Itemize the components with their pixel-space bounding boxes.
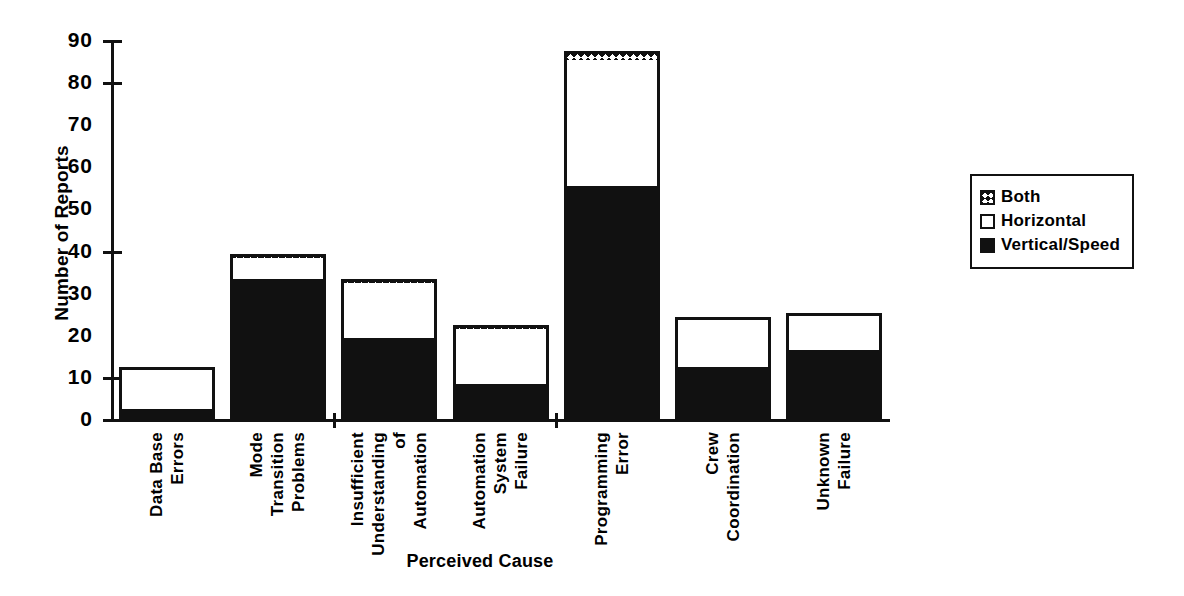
x-label-group-2: ModeTransitionProblems — [248, 432, 311, 582]
y-tick-label: 10 — [47, 366, 93, 387]
segment-vertical-speed — [230, 279, 326, 422]
x-tick-label: Understanding — [370, 432, 387, 556]
white-swatch — [980, 214, 995, 229]
legend-item-3[interactable]: Vertical/Speed — [980, 235, 1120, 255]
segment-horizontal — [675, 317, 771, 368]
x-tick-label: of — [391, 432, 408, 449]
chart-legend: BothHorizontalVertical/Speed — [970, 174, 1134, 269]
segment-horizontal — [564, 60, 660, 186]
x-axis-title: Perceived Cause — [330, 551, 630, 572]
legend-label: Both — [1001, 187, 1041, 207]
x-tick-label: Mode — [248, 432, 265, 478]
y-tick-label: 40 — [47, 240, 93, 261]
bar-3[interactable] — [341, 279, 437, 422]
segment-vertical-speed — [786, 350, 882, 422]
legend-label: Vertical/Speed — [1001, 235, 1120, 255]
stacked-bar-chart: Number of Reports 0102030405060708090 Da… — [0, 0, 1184, 596]
segment-horizontal — [341, 283, 437, 338]
y-tick-label: 50 — [47, 197, 93, 218]
segment-both — [564, 51, 660, 59]
x-label-group-1: Data BaseErrors — [148, 432, 190, 582]
bar-2[interactable] — [230, 254, 326, 422]
bar-7[interactable] — [786, 313, 882, 422]
x-tick-label: Transition — [269, 432, 286, 516]
segment-horizontal — [119, 367, 215, 409]
bar-4[interactable] — [453, 325, 549, 422]
segment-both — [341, 279, 437, 283]
segment-horizontal — [786, 313, 882, 351]
y-tick-label: 0 — [47, 408, 93, 429]
y-tick-label: 90 — [47, 29, 93, 50]
legend-label: Horizontal — [1001, 211, 1086, 231]
x-tick-label: Insufficient — [349, 432, 366, 526]
legend-item-2[interactable]: Horizontal — [980, 211, 1120, 231]
segment-vertical-speed — [119, 409, 215, 422]
segment-horizontal — [230, 258, 326, 279]
x-tick-label: Failure — [513, 432, 530, 490]
segment-vertical-speed — [564, 186, 660, 422]
segment-both — [453, 325, 549, 329]
segment-horizontal — [453, 329, 549, 384]
x-tick-label: Automation — [412, 432, 429, 529]
segment-vertical-speed — [341, 338, 437, 422]
crosshatch-swatch — [980, 190, 995, 205]
segment-both — [230, 254, 326, 258]
x-label-group-7: UnknownFailure — [815, 432, 857, 582]
legend-item-1[interactable]: Both — [980, 187, 1120, 207]
bar-5[interactable] — [564, 51, 660, 422]
x-tick-label: Error — [614, 432, 631, 475]
x-tick-label: Data Base — [148, 432, 165, 517]
plot-area — [111, 41, 890, 422]
segment-vertical-speed — [453, 384, 549, 422]
x-tick-label: Failure — [836, 432, 853, 490]
x-tick-label: Crew — [704, 432, 721, 475]
x-tick-label: Problems — [290, 432, 307, 512]
x-tick-label: Automation — [471, 432, 488, 529]
x-tick-label: Unknown — [815, 432, 832, 511]
y-tick-label: 60 — [47, 155, 93, 176]
x-label-group-6: CrewCoordination — [704, 432, 746, 582]
y-tick-label: 20 — [47, 324, 93, 345]
bar-6[interactable] — [675, 317, 771, 422]
y-tick-label: 30 — [47, 282, 93, 303]
bar-1[interactable] — [119, 367, 215, 422]
y-tick-label: 80 — [47, 71, 93, 92]
x-tick-label: Coordination — [725, 432, 742, 541]
x-tick-label: Programming — [593, 432, 610, 546]
x-tick-label: Errors — [169, 432, 186, 485]
segment-vertical-speed — [675, 367, 771, 422]
y-tick-label: 70 — [47, 113, 93, 134]
x-tick-label: System — [492, 432, 509, 494]
black-swatch — [980, 238, 995, 253]
